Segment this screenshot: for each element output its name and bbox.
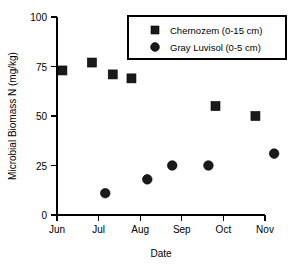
x-ticklabel-oct: Oct	[216, 224, 232, 235]
x-ticklabel-sep: Sep	[173, 224, 191, 235]
data-point	[142, 175, 152, 185]
data-point	[269, 149, 279, 159]
data-point	[204, 161, 214, 171]
x-axis-title: Date	[150, 248, 172, 259]
legend-marker-circle-icon	[151, 43, 160, 52]
data-point	[211, 102, 220, 111]
data-point	[127, 74, 136, 83]
legend-label-chernozem: Chernozem (0-15 cm)	[170, 25, 262, 36]
data-point	[100, 188, 110, 198]
y-ticklabel-25: 25	[36, 161, 48, 172]
data-point	[58, 66, 67, 75]
chart-figure: 100 75 50 25 0 Jun Jul Aug Sep Oct Nov M…	[0, 0, 307, 274]
series-chernozem-markers	[58, 58, 260, 120]
legend-label-gray-luvisol: Gray Luvisol (0-5 cm)	[170, 42, 261, 53]
legend: Chernozem (0-15 cm) Gray Luvisol (0-5 cm…	[128, 16, 286, 59]
x-ticklabel-jul: Jul	[92, 224, 105, 235]
x-ticklabel-nov: Nov	[256, 224, 274, 235]
y-ticklabel-75: 75	[36, 62, 48, 73]
data-point	[251, 112, 260, 121]
y-ticklabel-100: 100	[30, 12, 47, 23]
x-ticklabel-jun: Jun	[49, 224, 65, 235]
data-point	[108, 70, 117, 79]
series-gray-luvisol-markers	[100, 149, 278, 198]
legend-marker-square-icon	[151, 26, 159, 34]
y-axis-title: Microbial Biomass N (mg/kg)	[7, 52, 18, 180]
data-point	[167, 161, 177, 171]
scatter-plot: 100 75 50 25 0 Jun Jul Aug Sep Oct Nov M…	[0, 0, 307, 274]
y-ticklabel-50: 50	[36, 111, 48, 122]
y-ticklabel-0: 0	[41, 210, 47, 221]
x-ticklabel-aug: Aug	[131, 224, 149, 235]
data-point	[87, 58, 96, 67]
